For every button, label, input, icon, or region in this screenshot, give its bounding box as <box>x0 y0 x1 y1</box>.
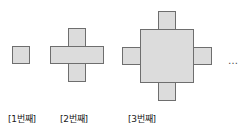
figure-sequence-panel: [1번째][2번째][3번째]… <box>0 0 247 134</box>
figure-1-bar-1 <box>12 46 30 64</box>
figure-3-caption: [3번째] <box>128 112 156 125</box>
figure-2-caption: [2번째] <box>60 112 88 125</box>
figure-3-bar-3 <box>140 29 194 83</box>
figure-2-bar-2 <box>50 46 104 64</box>
figure-1-caption: [1번째] <box>8 112 36 125</box>
continuation-ellipsis: … <box>228 55 239 66</box>
